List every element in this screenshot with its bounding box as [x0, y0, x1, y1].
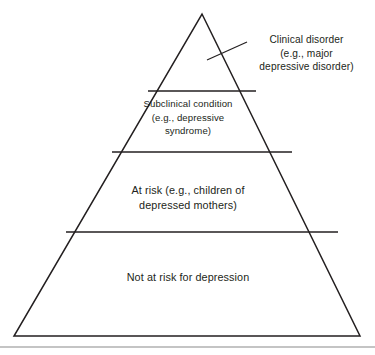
band-label-subclinical-condition: Subclinical condition (e.g., depressive … [112, 97, 264, 138]
band-label-at-risk: At risk (e.g., children of depressed mot… [92, 183, 284, 213]
band-label-clinical-disorder: Clinical disorder (e.g., major depressiv… [238, 33, 375, 74]
depression-risk-pyramid-figure: Clinical disorder (e.g., major depressiv… [0, 0, 375, 355]
band-label-not-at-risk: Not at risk for depression [82, 270, 294, 285]
